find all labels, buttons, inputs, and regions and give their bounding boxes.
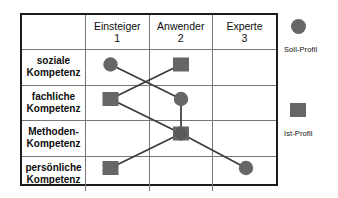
column-header-experte-level: 3 (213, 32, 276, 45)
cell-soziale-anwender (149, 50, 213, 86)
row-header-fachliche-line2: Kompetenz (22, 103, 85, 115)
column-header-einsteiger-name: Einsteiger (86, 20, 149, 33)
row-header-persoenliche-line2: Kompetenz (22, 174, 85, 186)
matrix-header-row: Einsteiger 1 Anwender 2 Experte 3 (22, 15, 276, 50)
column-header-einsteiger-level: 1 (86, 32, 149, 45)
circle-marker-icon (291, 19, 306, 34)
row-header-persoenliche: persönliche Kompetenz (22, 156, 86, 191)
cell-fachliche-einsteiger (86, 85, 150, 121)
legend-label-soll-profil: Soll-Profil (284, 45, 338, 54)
matrix-corner-cell (22, 15, 86, 50)
matrix-table: Einsteiger 1 Anwender 2 Experte 3 sozial… (22, 15, 276, 191)
competence-profile-chart: Einsteiger 1 Anwender 2 Experte 3 sozial… (0, 0, 338, 198)
row-header-methoden-line2: Kompetenz (22, 138, 85, 150)
row-header-soziale: soziale Kompetenz (22, 50, 86, 86)
cell-soziale-einsteiger (86, 50, 150, 86)
row-header-methoden: Methoden- Kompetenz (22, 121, 86, 157)
competence-matrix-table: Einsteiger 1 Anwender 2 Experte 3 sozial… (20, 13, 278, 186)
legend-entry-ist-profil: Ist-Profil (284, 101, 338, 138)
row-header-persoenliche-line1: persönliche (22, 162, 85, 174)
row-header-methoden-line1: Methoden- (22, 126, 85, 138)
cell-fachliche-anwender (149, 85, 213, 121)
legend-entry-soll-profil: Soll-Profil (284, 17, 338, 54)
column-header-anwender: Anwender 2 (149, 15, 213, 50)
column-header-einsteiger: Einsteiger 1 (86, 15, 150, 50)
matrix-row-soziale: soziale Kompetenz (22, 50, 276, 86)
cell-fachliche-experte (213, 85, 277, 121)
row-header-fachliche-line1: fachliche (22, 91, 85, 103)
cell-soziale-experte (213, 50, 277, 86)
chart-legend: Soll-Profil Ist-Profil (284, 13, 338, 153)
cell-methoden-einsteiger (86, 121, 150, 157)
column-header-anwender-name: Anwender (150, 20, 213, 33)
cell-persoenliche-experte (213, 156, 277, 191)
matrix-row-fachliche: fachliche Kompetenz (22, 85, 276, 121)
legend-soll-swatch-wrap (284, 17, 338, 37)
row-header-soziale-line2: Kompetenz (22, 67, 85, 79)
square-marker-icon (290, 103, 306, 117)
column-header-experte: Experte 3 (213, 15, 277, 50)
matrix-row-methoden: Methoden- Kompetenz (22, 121, 276, 157)
legend-label-ist-profil: Ist-Profil (284, 129, 338, 138)
cell-methoden-experte (213, 121, 277, 157)
legend-ist-swatch-wrap (284, 101, 338, 121)
column-header-experte-name: Experte (213, 20, 276, 33)
row-header-fachliche: fachliche Kompetenz (22, 85, 86, 121)
cell-methoden-anwender (149, 121, 213, 157)
cell-persoenliche-anwender (149, 156, 213, 191)
row-header-soziale-line1: soziale (22, 55, 85, 67)
column-header-anwender-level: 2 (150, 32, 213, 45)
cell-persoenliche-einsteiger (86, 156, 150, 191)
matrix-row-persoenliche: persönliche Kompetenz (22, 156, 276, 191)
